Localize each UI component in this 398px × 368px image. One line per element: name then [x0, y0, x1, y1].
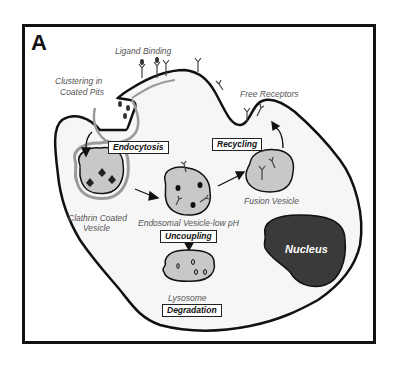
label-endosomal-vesicle: Endosomal Vesicle-low pH	[138, 218, 239, 228]
label-clathrin-line1: Clathrin Coated	[68, 213, 127, 223]
label-fusion-vesicle: Fusion Vesicle	[244, 196, 299, 206]
panel-letter: A	[31, 30, 47, 56]
box-uncoupling: Uncoupling	[160, 230, 217, 243]
label-clathrin-line2: Vesicle	[83, 223, 110, 233]
label-clustering-line1: Clustering in	[55, 76, 102, 86]
box-degradation: Degradation	[162, 304, 222, 317]
box-endocytosis: Endocytosis	[108, 141, 169, 154]
label-ligand-binding: Ligand Binding	[115, 46, 171, 56]
box-recycling: Recycling	[212, 138, 262, 151]
label-free-receptors: Free Receptors	[240, 89, 299, 99]
label-lysosome: Lysosome	[168, 293, 207, 303]
lysosome	[163, 250, 215, 281]
label-clustering-line2: Coated Pits	[60, 87, 104, 97]
label-nucleus: Nucleus	[285, 243, 328, 255]
fusion-vesicle	[246, 150, 293, 192]
